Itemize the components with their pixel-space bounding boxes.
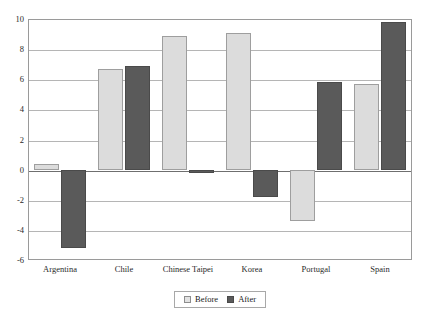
bar-korea-before[interactable]: [226, 33, 251, 170]
bar-argentina-before[interactable]: [34, 164, 59, 169]
bar-spain-before[interactable]: [354, 84, 379, 170]
y-tick-label-4: 4: [0, 105, 24, 114]
legend-label-before: Before: [195, 295, 218, 304]
bar-chile-after[interactable]: [125, 66, 150, 170]
x-tick-label-spain: Spain: [348, 264, 412, 274]
legend-item-after[interactable]: After: [227, 295, 256, 304]
legend-swatch-after-icon: [227, 296, 234, 303]
y-tick-label-0: 0: [0, 166, 24, 175]
x-tick-label-argentina: Argentina: [28, 264, 92, 274]
bar-chile-before[interactable]: [98, 69, 123, 170]
x-tick-label-chile: Chile: [92, 264, 156, 274]
x-axis-labels: ArgentinaChileChinese TaipeiKoreaPortuga…: [28, 264, 412, 278]
x-tick-label-korea: Korea: [220, 264, 284, 274]
bar-spain-after[interactable]: [381, 22, 406, 170]
y-tick-label--4: -4: [0, 226, 24, 235]
y-tick-label-6: 6: [0, 75, 24, 84]
y-tick-label--6: -6: [0, 256, 24, 265]
legend-swatch-before-icon: [184, 296, 191, 303]
bar-korea-after[interactable]: [253, 170, 278, 197]
bars-layer: [28, 19, 412, 260]
bar-chinese-taipei-before[interactable]: [162, 36, 187, 170]
y-tick-label--2: -2: [0, 196, 24, 205]
y-tick-label-10: 10: [0, 15, 24, 24]
x-tick-label-portugal: Portugal: [284, 264, 348, 274]
legend-label-after: After: [238, 295, 256, 304]
bar-chart: 1086420-2-4-6 ArgentinaChileChinese Taip…: [0, 0, 430, 317]
bar-argentina-after[interactable]: [61, 170, 86, 248]
legend-item-before[interactable]: Before: [184, 295, 218, 304]
bar-chinese-taipei-after[interactable]: [189, 170, 214, 173]
y-tick-label-8: 8: [0, 45, 24, 54]
chart-title: [0, 0, 430, 2]
bar-portugal-before[interactable]: [290, 170, 315, 221]
bar-portugal-after[interactable]: [317, 82, 342, 169]
x-tick-label-chinese-taipei: Chinese Taipei: [156, 264, 220, 274]
chart-legend: Before After: [174, 291, 266, 308]
y-tick-label-2: 2: [0, 136, 24, 145]
